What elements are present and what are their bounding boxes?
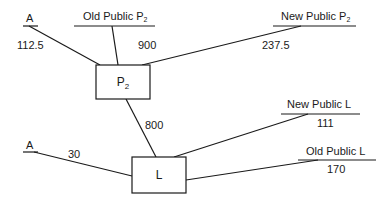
terminal-label-a-bottom: A <box>26 139 33 151</box>
terminal-label-old-public-p2: Old Public P2 <box>83 10 147 22</box>
node-label-p2: P2 <box>96 75 150 91</box>
terminal-label-old-public-l: Old Public L <box>306 145 365 157</box>
edge-value-new-public-l: 111 <box>317 117 334 129</box>
old-public-p2-text: Old Public P <box>83 10 144 22</box>
edge-l-old-public-l <box>186 160 318 180</box>
edge-value-p2-l: 800 <box>145 119 163 131</box>
new-public-p2-subscript: 2 <box>346 16 350 23</box>
edge-value-a-bottom: 30 <box>68 148 80 160</box>
terminal-label-new-public-l: New Public L <box>287 98 351 110</box>
edge-old-public-p2-p2 <box>112 26 118 65</box>
edge-value-old-public-l: 170 <box>327 163 345 175</box>
edge-value-a-top: 112.5 <box>17 39 44 51</box>
new-public-p2-text: New Public P <box>281 10 346 22</box>
node-label-l: L <box>132 168 186 182</box>
node-p2-text: P <box>117 75 125 89</box>
edge-value-new-public-p2: 237.5 <box>262 39 290 51</box>
old-public-p2-subscript: 2 <box>144 16 148 23</box>
node-p2-subscript: 2 <box>125 82 129 91</box>
edge-value-old-public-p2: 900 <box>138 39 156 51</box>
edge-a-bottom-l <box>34 152 132 176</box>
terminal-label-a-top: A <box>26 12 33 24</box>
node-l-text: L <box>156 168 163 182</box>
edge-l-new-public-l <box>174 114 308 157</box>
terminal-label-new-public-p2: New Public P2 <box>281 10 350 22</box>
